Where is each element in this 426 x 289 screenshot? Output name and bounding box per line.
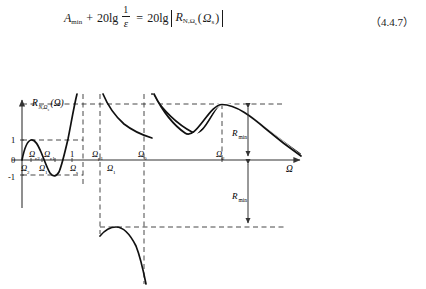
chebyshev-response-plot: R N,Ω s (Ω) Ω 1 0 -1 Ω c2 Ω c1 1 Ω p1 Ω … (0, 44, 426, 289)
xlabel-above-2: 1 (70, 149, 74, 159)
equation-20lg-second: 20lg (147, 11, 168, 26)
y-tick-label-minus1: -1 (8, 172, 15, 182)
equation-number: （4.4.7） (370, 13, 414, 29)
abs-bar-right (222, 10, 223, 27)
equation-lhs-A-sub: min (71, 18, 82, 26)
equation-arg: Ωs (203, 11, 214, 26)
x-axis-label: Ω (286, 164, 293, 174)
y-tick-label-1: 1 (11, 135, 15, 145)
y-axis-label-sub2: s (48, 107, 50, 112)
x-labels-above: Ω c2 Ω c1 1 Ω p1 Ω 0 Ω 2 (29, 149, 225, 161)
rmin-label-upper: R (231, 128, 238, 138)
xlabel-above-3-sub: p1 (98, 156, 104, 161)
xlabel-above-1-sub: c1 (50, 156, 55, 161)
equation-abs-open (169, 10, 174, 27)
xlabel-below-3-sub: 1 (113, 170, 116, 175)
y-axis-label-sub: N,Ω (38, 104, 48, 110)
equation-rhs-R-sub: N,Ωs (183, 17, 197, 25)
rmin-labels: R min R min (231, 128, 247, 203)
chart-container: R N,Ω s (Ω) Ω 1 0 -1 Ω c2 Ω c1 1 Ω p1 Ω … (0, 44, 426, 289)
rmin-label-lower: R (231, 191, 238, 201)
curve-left-lobe-and-rise (22, 94, 77, 176)
equation-equals: = (136, 11, 143, 26)
dashed-guides (22, 94, 285, 284)
x-labels-below: Ω 2 Ω 1 Ω s Ω 1 (21, 163, 116, 175)
abs-bar-left (171, 10, 172, 27)
equation-plus: + (86, 11, 93, 26)
equation-lhs-A: Amin (64, 11, 82, 26)
xlabel-below-0-sub: 2 (27, 170, 30, 175)
equation-arg-open: ( (198, 11, 202, 26)
y-axis-label-group: R N,Ω s (Ω) (31, 98, 64, 112)
xlabel-below-1-sub: 1 (45, 170, 48, 175)
xlabel-below-2-sub: s (76, 170, 78, 175)
y-axis-label-arg: (Ω) (51, 98, 64, 109)
equation-row: Amin + 20lg 1 ε = 20lg RN,Ωs ( Ωs ) （4.4… (0, 6, 426, 40)
xlabel-above-0-sub: c2 (35, 156, 40, 161)
equation-arg-close: ) (215, 11, 219, 26)
equation-fraction: 1 ε (121, 5, 130, 29)
equation-20lg-first: 20lg (97, 11, 118, 26)
rmin-label-lower-sub: min (239, 197, 248, 203)
curve-middle-lower-hump (100, 227, 146, 284)
equation-rhs-R: RN,Ωs (175, 10, 196, 26)
fraction-numerator: 1 (121, 5, 130, 16)
fraction-denominator: ε (122, 16, 130, 29)
rmin-label-upper-sub: min (239, 134, 248, 140)
equation-4-4-7: Amin + 20lg 1 ε = 20lg RN,Ωs ( Ωs ) (64, 6, 225, 30)
equation-abs-close (220, 10, 225, 27)
equation-rhs-R-symbol: R (175, 10, 182, 24)
curve-middle-upper (103, 94, 152, 138)
y-axis-label-R: R (31, 98, 38, 108)
y-tick-label-0: 0 (11, 155, 15, 165)
